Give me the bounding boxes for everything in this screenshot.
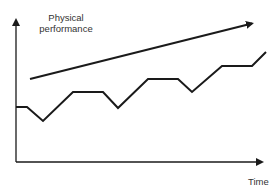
performance-line (16, 52, 266, 121)
y-axis-label: Physical performance (36, 12, 96, 34)
x-axis-label: Time (248, 176, 269, 187)
y-axis-label-line2: performance (36, 23, 96, 34)
y-axis-label-line1: Physical (36, 12, 96, 23)
